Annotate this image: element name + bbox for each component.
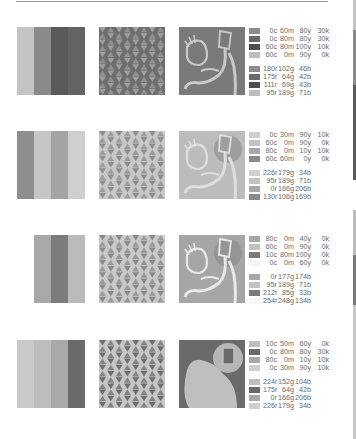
cmyk-k-value: 0k: [311, 259, 329, 267]
top-rule: [16, 1, 328, 2]
palette-row: 0c30m90y10k60c0m90y0k80c0m10y10k60c60m0y…: [0, 131, 356, 201]
stripe-swatch: [34, 235, 85, 303]
cmyk-y-value: 0y: [294, 155, 311, 163]
color-swatch: [249, 132, 260, 138]
color-swatch: [249, 260, 260, 266]
triangle-pattern: [99, 340, 165, 408]
color-swatch: [249, 28, 260, 34]
rgb-r-value: 95r: [263, 89, 277, 97]
color-values-table: 10c50m60y0k0c80m80y30k80c0m10y10k0c30m90…: [249, 340, 331, 410]
cartoon-figure-image: [179, 27, 245, 95]
stripe: [68, 340, 85, 408]
color-swatch: [249, 403, 260, 409]
cmyk-y-value: 90y: [294, 51, 311, 59]
palette-row: 80c0m40y0k60c0m90y0k10c80m100y0k0c0m60y0…: [0, 235, 356, 305]
stripe: [34, 340, 51, 408]
rgb-row: 130r106g169b: [249, 193, 331, 201]
stripe: [68, 235, 85, 303]
color-swatch: [249, 357, 260, 363]
rgb-row: 226r179g34b: [249, 402, 331, 410]
color-swatch: [249, 252, 260, 258]
cmyk-c-value: 0c: [263, 364, 277, 372]
cmyk-y-value: 60y: [294, 259, 311, 267]
color-swatch: [249, 244, 260, 250]
rgb-b-value: 34b: [294, 402, 311, 410]
color-swatch: [249, 349, 260, 355]
cmyk-m-value: 60m: [277, 155, 294, 163]
stripe: [34, 27, 51, 95]
cmyk-m-value: 0m: [277, 51, 294, 59]
stripe: [51, 235, 68, 303]
triangle-pattern: [99, 131, 165, 199]
cmyk-m-value: 30m: [277, 364, 294, 372]
color-values-table: 80c0m40y0k60c0m90y0k10c80m100y0k0c0m60y0…: [249, 235, 331, 305]
color-swatch: [249, 148, 260, 154]
color-swatch: [249, 36, 260, 42]
cmyk-k-value: 0k: [311, 51, 329, 59]
color-swatch: [249, 44, 260, 50]
stripe-swatch: [17, 340, 85, 408]
color-swatch: [249, 274, 260, 280]
cmyk-m-value: 0m: [277, 259, 294, 267]
stripe-swatch: [17, 131, 85, 199]
rgb-row: 254r248g134b: [249, 297, 331, 305]
rgb-r-value: 226r: [263, 402, 277, 410]
rgb-g-value: 189g: [277, 89, 294, 97]
color-swatch: [249, 341, 260, 347]
stripe: [51, 131, 68, 199]
color-values-table: 0c60m80y30k0c80m80y30k60c80m100y10k60c0m…: [249, 27, 331, 97]
color-swatch: [249, 140, 260, 146]
rgb-g-value: 106g: [277, 193, 294, 201]
palette-row: 0c60m80y30k0c80m80y30k60c80m100y10k60c0m…: [0, 27, 356, 97]
rgb-b-value: 134b: [294, 297, 311, 305]
rgb-row: 95r189g71b: [249, 89, 331, 97]
cmyk-k-value: 0k: [311, 155, 329, 163]
color-swatch: [249, 82, 260, 88]
cmyk-c-value: 0c: [263, 259, 277, 267]
color-swatch: [249, 387, 260, 393]
cmyk-y-value: 90y: [294, 364, 311, 372]
stripe-swatch: [17, 27, 85, 95]
stripe: [17, 340, 34, 408]
cmyk-c-value: 60c: [263, 155, 277, 163]
cartoon-figure-image: [179, 340, 245, 408]
color-swatch: [249, 236, 260, 242]
stripe: [34, 131, 51, 199]
color-swatch: [249, 66, 260, 72]
color-swatch: [249, 74, 260, 80]
cmyk-k-value: 10k: [311, 364, 329, 372]
color-values-table: 0c30m90y10k60c0m90y0k80c0m10y10k60c60m0y…: [249, 131, 331, 201]
stripe: [17, 27, 34, 95]
color-swatch: [249, 395, 260, 401]
rgb-g-value: 248g: [277, 297, 294, 305]
cmyk-row: 60c0m90y0k: [249, 51, 331, 59]
color-swatch: [249, 298, 260, 304]
stripe: [51, 27, 68, 95]
color-swatch: [249, 178, 260, 184]
cmyk-row: 0c30m90y10k: [249, 364, 331, 372]
stripe: [68, 131, 85, 199]
cmyk-row: 0c0m60y0k: [249, 259, 331, 267]
color-swatch: [249, 90, 260, 96]
rgb-b-value: 169b: [294, 193, 311, 201]
cmyk-c-value: 60c: [263, 51, 277, 59]
stripe: [34, 235, 51, 303]
rgb-r-value: 130r: [263, 193, 277, 201]
triangle-pattern: [99, 235, 165, 303]
color-swatch: [249, 379, 260, 385]
color-swatch: [249, 290, 260, 296]
stripe: [17, 131, 34, 199]
triangle-pattern: [99, 27, 165, 95]
palette-row: 10c50m60y0k0c80m80y30k80c0m10y10k0c30m90…: [0, 340, 356, 410]
color-swatch: [249, 186, 260, 192]
color-swatch: [249, 170, 260, 176]
color-swatch: [249, 282, 260, 288]
rgb-r-value: 254r: [263, 297, 277, 305]
rgb-g-value: 179g: [277, 402, 294, 410]
color-swatch: [249, 156, 260, 162]
color-swatch: [249, 52, 260, 58]
stripe: [68, 27, 85, 95]
color-swatch: [249, 194, 260, 200]
color-swatch: [249, 365, 260, 371]
cartoon-figure-image: [179, 235, 245, 303]
